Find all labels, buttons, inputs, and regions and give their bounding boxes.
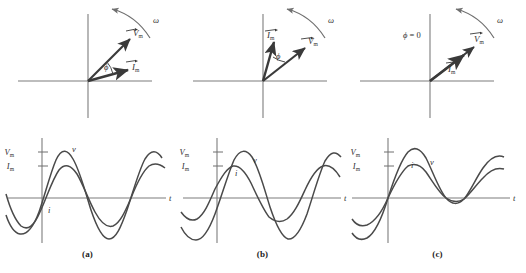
omega-arc-a [112, 9, 150, 38]
i-curve-label-b: i [235, 168, 238, 178]
phi-zero-label-c: ϕ = 0 [403, 30, 421, 40]
panel-caption-a: (a) [0, 249, 175, 259]
im-tick-label-c: Im [352, 161, 361, 172]
voltage-waveform-c [352, 149, 504, 240]
t-axis-label-c: t [513, 193, 516, 203]
im-tick-label-b: Im [181, 161, 190, 172]
panel-caption-c: (c) [350, 249, 525, 259]
v-curve-label-b: v [253, 155, 257, 165]
current-waveform-b [181, 166, 340, 222]
panel-b: ω Im Vm ϕ Vm [175, 0, 350, 273]
waveform-axes-b [183, 138, 341, 243]
vm-tick-label-a: Vm [4, 147, 14, 158]
phasor-axes-c [360, 14, 494, 118]
omega-label-b: ω [328, 15, 334, 25]
im-tick-label-a: Im [6, 161, 15, 172]
panel-c-graphics: ω ϕ = 0 Im Vm [350, 0, 525, 250]
voltage-waveform-a [6, 151, 162, 239]
t-axis-label-a: t [169, 193, 172, 203]
panel-caption-b: (b) [175, 249, 350, 259]
i-curve-label-a: i [48, 205, 51, 215]
panel-c: ω ϕ = 0 Im Vm [350, 0, 525, 273]
voltage-phasor-c [430, 47, 474, 81]
phasor-waveform-figure: ω Vm Im ϕ [0, 0, 526, 273]
phi-label-a: ϕ [104, 62, 109, 72]
voltage-phasor-b [263, 48, 305, 81]
v-curve-label-a: v [72, 144, 76, 154]
omega-label-c: ω [497, 15, 503, 25]
omega-arc-b [287, 9, 325, 38]
current-phasor-label-a: Im [131, 62, 140, 73]
current-phasor-label-b: Im [266, 30, 275, 41]
panel-a: ω Vm Im ϕ [0, 0, 175, 273]
vm-tick-label-c: Vm [350, 147, 360, 158]
phasor-axes-b [193, 14, 327, 118]
omega-label-a: ω [153, 15, 159, 25]
current-phasor-b [263, 42, 274, 81]
phi-label-b: ϕ [276, 51, 281, 61]
current-waveform-c [352, 164, 504, 225]
panel-b-graphics: ω Im Vm ϕ Vm [175, 0, 350, 250]
v-curve-label-c: v [430, 157, 434, 167]
vm-tick-label-b: Vm [179, 147, 189, 158]
current-waveform-a [6, 164, 165, 228]
voltage-waveform-b [181, 151, 341, 240]
voltage-phasor-label-c: Vm [474, 34, 485, 45]
t-axis-label-b: t [344, 193, 347, 203]
panel-a-graphics: ω Vm Im ϕ [0, 0, 175, 250]
